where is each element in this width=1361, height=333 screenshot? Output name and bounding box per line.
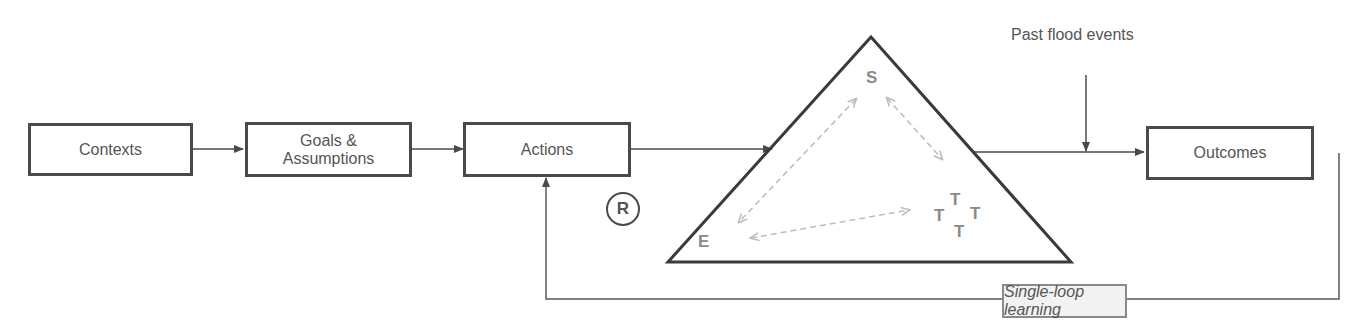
outcomes-label: Outcomes: [1194, 144, 1267, 162]
goals-label-line2: Assumptions: [283, 150, 375, 168]
triangle-label-t4: T: [954, 222, 964, 242]
outcomes-box: Outcomes: [1146, 126, 1314, 180]
triangle-label-e: E: [698, 232, 709, 252]
actions-label: Actions: [521, 141, 573, 159]
single-loop-learning-text: Single-loop learning: [1004, 283, 1125, 319]
contexts-label: Contexts: [79, 141, 142, 159]
contexts-box: Contexts: [28, 123, 193, 176]
dashed-arrow-e-t: [751, 210, 909, 238]
reinforcing-loop-symbol: R: [606, 192, 640, 226]
goals-label-line1: Goals &: [300, 132, 357, 150]
past-flood-events-label: Past flood events: [1011, 26, 1134, 44]
single-loop-learning-diagram: Contexts Goals & Assumptions Actions Out…: [0, 0, 1361, 333]
actions-box: Actions: [463, 122, 631, 177]
reinforcing-loop-label: R: [617, 199, 629, 219]
triangle-label-s: S: [866, 68, 877, 88]
single-loop-learning-label: Single-loop learning: [1002, 284, 1127, 318]
goals-assumptions-box: Goals & Assumptions: [245, 122, 412, 177]
triangle-label-t3: T: [970, 204, 980, 224]
triangle-label-t1: T: [950, 190, 960, 210]
triangle-label-t2: T: [934, 206, 944, 226]
